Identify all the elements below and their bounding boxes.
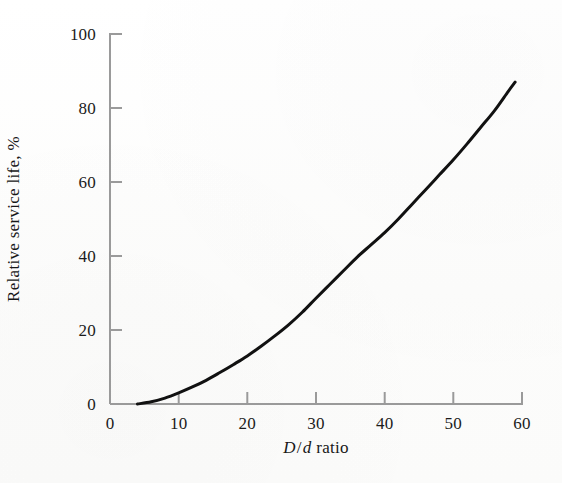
x-tick-label-50: 50 <box>445 415 462 432</box>
x-tick-label-40: 40 <box>376 415 393 432</box>
y-tick-label-80: 80 <box>44 100 96 117</box>
y-axis-spine <box>110 34 122 404</box>
x-axis-title: D/d ratio <box>283 438 349 458</box>
x-axis-title-numerator: D <box>283 438 296 457</box>
x-axis-title-word: ratio <box>316 438 349 457</box>
x-axis-title-denominator: d <box>303 438 312 457</box>
y-axis-title: Relative service life, % <box>4 136 24 302</box>
x-tick-label-60: 60 <box>513 415 530 432</box>
x-tick-label-10: 10 <box>170 415 187 432</box>
x-tick-label-20: 20 <box>239 415 256 432</box>
x-axis-ticks <box>179 392 522 404</box>
y-axis-ticks <box>110 34 122 330</box>
series-line-relative-service-life <box>137 82 515 404</box>
y-tick-label-0: 0 <box>44 396 96 413</box>
y-tick-label-100: 100 <box>44 26 96 43</box>
x-axis-title-slash: / <box>296 438 303 457</box>
y-tick-label-60: 60 <box>44 174 96 191</box>
y-tick-label-40: 40 <box>44 248 96 265</box>
y-tick-label-20: 20 <box>44 322 96 339</box>
figure-canvas: 100 80 60 40 20 0 0 10 20 30 40 50 60 Re… <box>0 0 562 483</box>
x-tick-label-30: 30 <box>307 415 324 432</box>
x-tick-label-0: 0 <box>106 415 115 432</box>
